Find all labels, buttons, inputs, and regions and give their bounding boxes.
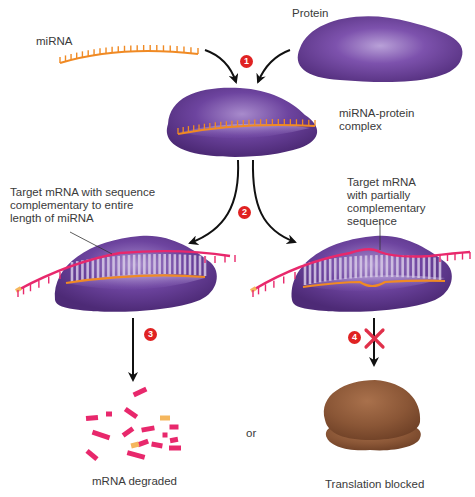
mirna-protein-complex (167, 88, 317, 157)
step-badge-4: 4 (348, 331, 361, 344)
label-mirna: miRNA (36, 35, 72, 48)
label-or: or (246, 427, 256, 440)
free-mirna-strand (60, 45, 198, 63)
label-target-full: Target mRNA with sequence complementary … (10, 186, 155, 225)
mrna-fragment (86, 415, 98, 421)
mrna-fragment (85, 449, 98, 461)
mrna-fragment (151, 442, 163, 449)
diagram-canvas (0, 0, 475, 497)
mrna-fragment (169, 446, 181, 451)
step-badge-1: 1 (240, 55, 253, 68)
full-match-complex (16, 232, 235, 312)
mrna-fragment (170, 425, 179, 430)
ribosome (324, 380, 421, 450)
mrna-fragment (141, 425, 155, 432)
label-target-partial: Target mRNA with partially complementary… (347, 176, 426, 228)
mrna-fragment (106, 412, 112, 417)
arrow-protein-to-complex (258, 50, 290, 82)
mrna-fragment (124, 407, 138, 419)
label-mrna-degraded: mRNA degraded (92, 475, 177, 488)
free-protein (298, 16, 463, 82)
label-protein: Protein (292, 7, 328, 20)
mrna-fragment (163, 433, 168, 438)
mrna-fragment (122, 427, 135, 438)
label-translation-blocked: Translation blocked (325, 478, 424, 491)
label-mirna-protein-complex: miRNA-protein complex (339, 107, 414, 133)
arrow-complex-to-full-match (190, 160, 238, 243)
mrna-fragments (85, 387, 181, 461)
mrna-fragment (130, 442, 139, 449)
step-badge-3: 3 (144, 328, 157, 341)
partial-match-complex (251, 222, 470, 312)
mrna-fragment (160, 416, 170, 421)
arrow-complex-to-partial-match (253, 160, 295, 242)
mrna-fragment (127, 450, 146, 459)
mrna-fragment (92, 430, 111, 440)
mrna-fragment (170, 437, 179, 443)
arrow-mirna-to-complex (205, 50, 236, 82)
step-badge-2: 2 (238, 206, 251, 219)
diagram: miRNA Protein miRNA-protein complex Targ… (0, 0, 475, 497)
mrna-fragment (133, 387, 148, 397)
